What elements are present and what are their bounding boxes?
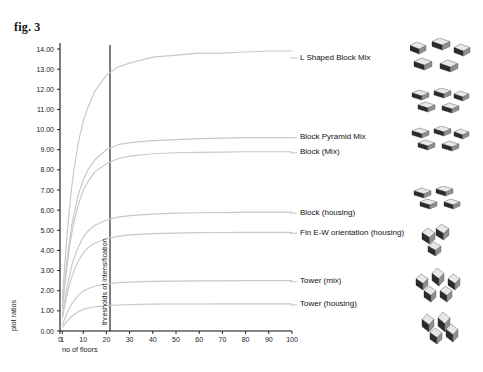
y-tick-label: 10.00 [36, 126, 54, 133]
thumb-block-pyramid-mix-svg [410, 88, 472, 122]
callout-block-mix: Block (Mix) [300, 147, 340, 156]
x-tick-label: 30 [126, 336, 134, 343]
thumb-block-mix [410, 126, 472, 160]
callout-tower-housing: Tower (housing) [300, 299, 357, 308]
series-line [62, 281, 292, 325]
y-tick-label: 5.00 [40, 227, 54, 234]
y-tick-label: 12.00 [36, 86, 54, 93]
thumb-block-mix-svg [410, 126, 472, 160]
callout-block-pyramid-mix: Block Pyramid Mix [300, 132, 366, 141]
y-tick-label: 1.00 [40, 307, 54, 314]
x-tick-label: 10 [79, 336, 87, 343]
callout-fin-ew-orientation-housing: Fin E-W orientation (housing) [300, 228, 404, 237]
thumb-fin-ew-orientation-housing [418, 224, 466, 258]
x-tick-label: 80 [242, 336, 250, 343]
x-tick-label: 50 [172, 336, 180, 343]
callout-l-shaped-block-mix: L Shaped Block Mix [300, 53, 370, 62]
thumb-l-shaped-block-mix-svg [410, 38, 472, 78]
callout-tower-mix: Tower (mix) [300, 276, 341, 285]
series-line [62, 152, 292, 309]
callout-block-housing: Block (housing) [300, 208, 355, 217]
y-tick-label: 2.00 [40, 287, 54, 294]
series-line [62, 51, 292, 299]
series-line [62, 212, 292, 316]
x-tick-label: 90 [265, 336, 273, 343]
threshold-annotation-label: thresholds of intensification [100, 238, 109, 325]
thumb-l-shaped-block-mix [410, 38, 472, 78]
chart-curves [62, 51, 292, 328]
thumb-tower-housing [418, 312, 466, 346]
thumb-tower-mix [414, 268, 468, 304]
y-tick-label: 14.00 [36, 46, 54, 53]
y-tick-label: 3.00 [40, 267, 54, 274]
series-line [62, 304, 292, 328]
x-axis-title: no of floors [62, 345, 98, 354]
y-tick-label: 6.00 [40, 207, 54, 214]
x-tick-label: 60 [195, 336, 203, 343]
thumb-fin-ew-orientation-housing-svg [418, 224, 466, 258]
x-tick-label: 40 [149, 336, 157, 343]
x-tick-label: 100 [286, 336, 298, 343]
chart-axes [60, 43, 292, 331]
x-tick-label: 70 [219, 336, 227, 343]
y-tick-label: 8.00 [40, 166, 54, 173]
y-axis-title: plot ratios [9, 299, 18, 331]
y-tick-label: 4.00 [40, 247, 54, 254]
y-tick-label: 7.00 [40, 187, 54, 194]
thumb-block-housing [412, 186, 470, 216]
thumb-tower-housing-svg [418, 312, 466, 346]
chart-canvas: 0.001.002.003.004.005.006.007.008.009.00… [0, 0, 483, 372]
y-tick-label: 11.00 [37, 106, 54, 113]
thumb-tower-mix-svg [414, 268, 468, 304]
x-tick-label: 1 [60, 336, 64, 343]
y-tick-label: 0.00 [40, 328, 54, 335]
thumb-block-pyramid-mix [410, 88, 472, 122]
y-tick-label: 9.00 [40, 146, 54, 153]
x-tick-label: 20 [103, 336, 111, 343]
thumb-block-housing-svg [412, 186, 470, 216]
series-line [62, 232, 292, 318]
y-tick-label: 13.00 [36, 66, 54, 73]
chart-leader-lines [290, 58, 297, 305]
